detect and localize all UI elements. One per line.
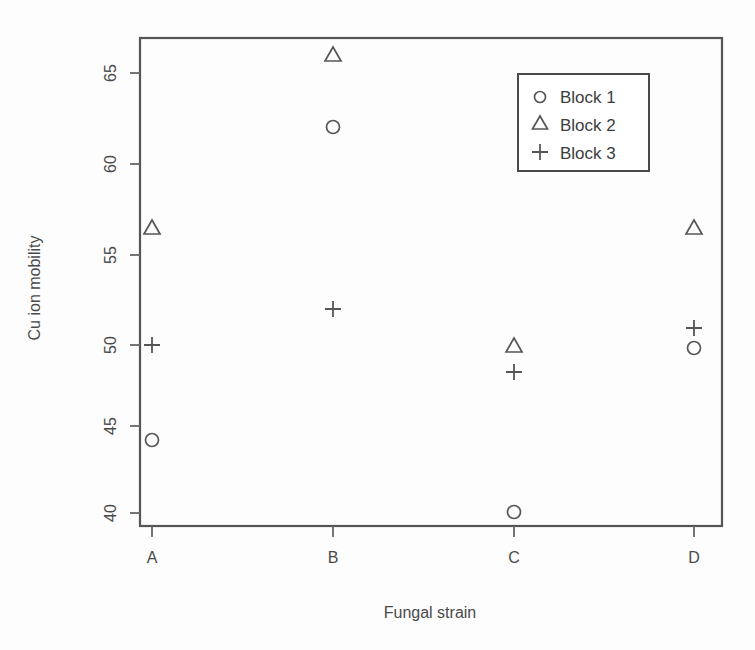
y-tick-label-60: 60 [102,155,119,173]
x-axis-title: Fungal strain [384,604,477,621]
data-group-strain-d [686,220,702,355]
point-block1-c [508,506,521,519]
legend: Block 1 Block 2 Block 3 [518,74,649,171]
scatter-plot: 65 60 55 50 45 40 A B C D Cu ion mobilit… [0,0,755,650]
y-tick-label-55: 55 [102,246,119,264]
point-block1-a [146,434,159,447]
chart-page: 65 60 55 50 45 40 A B C D Cu ion mobilit… [0,0,755,650]
point-block3-d [686,320,702,336]
y-axis-tick-labels: 65 60 55 50 45 40 [102,64,119,522]
point-block2-a [144,220,160,234]
point-block1-d [688,342,701,355]
x-tick-label-a: A [147,549,158,566]
y-tick-label-40: 40 [102,504,119,522]
legend-label-block-1: Block 1 [560,88,616,107]
point-block2-b [325,47,341,61]
y-tick-label-45: 45 [102,417,119,435]
point-block2-c [506,338,522,352]
y-axis-title: Cu ion mobility [26,236,43,341]
x-tick-label-c: C [508,549,520,566]
x-tick-label-d: D [688,549,700,566]
x-tick-label-b: B [328,549,339,566]
y-axis-ticks [130,73,140,513]
x-axis-tick-labels: A B C D [147,549,700,566]
point-block3-b [325,301,341,317]
data-group-strain-a [144,220,160,447]
x-axis-ticks [152,526,694,537]
point-block3-a [144,337,160,353]
point-block2-d [686,220,702,234]
data-group-strain-b [325,47,341,317]
y-tick-label-50: 50 [102,336,119,354]
legend-label-block-3: Block 3 [560,144,616,163]
point-block3-c [506,364,522,380]
point-block1-b [327,121,340,134]
y-tick-label-65: 65 [102,64,119,82]
data-group-strain-c [506,338,522,519]
legend-label-block-2: Block 2 [560,116,616,135]
